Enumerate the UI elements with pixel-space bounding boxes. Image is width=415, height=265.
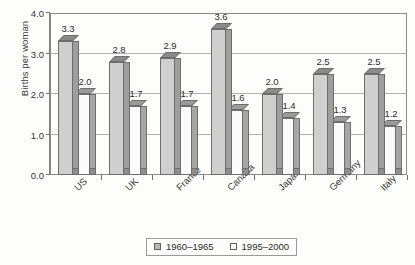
bar-base-shadow	[277, 169, 283, 175]
bar-base-shadow	[379, 169, 385, 175]
bar-value-label: 2.0	[265, 76, 278, 87]
y-tick-mark	[46, 12, 50, 13]
y-axis-title: Births per woman	[19, 0, 30, 124]
bar-front-face	[262, 94, 277, 175]
bar-side-panel	[328, 74, 334, 169]
bar-base-shadow	[192, 169, 198, 175]
x-tick-mark	[254, 175, 255, 180]
bar-value-label: 1.4	[282, 100, 295, 111]
x-category-label: UK	[123, 176, 140, 193]
bar-side-face	[243, 110, 249, 175]
bar	[160, 58, 175, 175]
bar-side-face	[90, 94, 96, 175]
y-tick-mark	[46, 53, 50, 54]
bar-side-panel	[294, 118, 300, 169]
bar	[262, 94, 277, 175]
bar-side-panel	[192, 106, 198, 169]
x-tick-mark	[101, 175, 102, 180]
bar-front-face	[313, 74, 328, 175]
bar-value-label: 2.8	[112, 44, 125, 55]
bar-value-label: 2.9	[163, 40, 176, 51]
bar-side-face	[294, 118, 300, 175]
bar-value-label: 1.3	[333, 104, 346, 115]
bar-side-panel	[175, 58, 181, 169]
bar-side-panel	[90, 94, 96, 169]
bar-side-panel	[345, 122, 351, 169]
plot-area: 0.01.02.03.04.0 3.32.02.81.72.91.73.61.6…	[50, 13, 407, 175]
bar-front-face	[364, 74, 379, 175]
y-tick-mark	[46, 134, 50, 135]
bar-value-label: 2.5	[367, 56, 380, 67]
x-tick-mark	[305, 175, 306, 180]
y-tick-label: 2.0	[31, 89, 44, 100]
bar-base-shadow	[90, 169, 96, 175]
legend-item: 1960–1965	[154, 241, 214, 252]
bar-base-shadow	[243, 169, 249, 175]
bar-value-label: 1.2	[384, 108, 397, 119]
bar-side-panel	[396, 126, 402, 169]
bar-side-face	[141, 106, 147, 175]
bar-front-face	[211, 29, 226, 175]
bar-side-face	[175, 58, 181, 175]
bar-base-shadow	[226, 169, 232, 175]
bar-side-face	[328, 74, 334, 175]
bar-side-panel	[277, 94, 283, 169]
bar-value-label: 3.3	[61, 23, 74, 34]
y-tick-mark	[46, 174, 50, 175]
bar-base-shadow	[396, 169, 402, 175]
y-tick-label: 4.0	[31, 8, 44, 19]
legend-item: 1995–2000	[230, 241, 290, 252]
bar-value-label: 1.7	[180, 88, 193, 99]
bar	[109, 62, 124, 175]
bar-side-face	[192, 106, 198, 175]
bar-side-face	[73, 41, 79, 175]
bar-base-shadow	[328, 169, 334, 175]
bar-front-face	[109, 62, 124, 175]
x-category-label: Italy	[378, 173, 398, 193]
bar-side-panel	[73, 41, 79, 169]
bar-side-panel	[124, 62, 130, 169]
bar-side-face	[226, 29, 232, 175]
bar-value-label: 3.6	[214, 11, 227, 22]
legend-label: 1995–2000	[242, 241, 290, 252]
bar-side-face	[379, 74, 385, 175]
bar-side-face	[124, 62, 130, 175]
bar-base-shadow	[175, 169, 181, 175]
x-tick-mark	[356, 175, 357, 180]
y-axis-spine	[49, 13, 50, 175]
legend-swatch-1960-1965-icon	[154, 243, 161, 250]
bar-base-shadow	[141, 169, 147, 175]
y-tick-label: 1.0	[31, 129, 44, 140]
x-tick-mark	[152, 175, 153, 180]
bar	[58, 41, 73, 175]
y-tick-label: 0.0	[31, 170, 44, 181]
bar-base-shadow	[124, 169, 130, 175]
bar-side-panel	[226, 29, 232, 169]
bar-value-label: 1.7	[129, 88, 142, 99]
bar-front-face	[58, 41, 73, 175]
bar-side-face	[396, 126, 402, 175]
x-category-label: US	[72, 176, 89, 193]
bar-value-label: 2.0	[78, 76, 91, 87]
bar-front-face	[160, 58, 175, 175]
bar-base-shadow	[73, 169, 79, 175]
bar	[211, 29, 226, 175]
bar-base-shadow	[294, 169, 300, 175]
bar-value-label: 2.5	[316, 56, 329, 67]
y-tick-mark	[46, 93, 50, 94]
x-tick-mark	[203, 175, 204, 180]
legend-label: 1960–1965	[166, 241, 214, 252]
bar-side-panel	[379, 74, 385, 169]
bar-side-panel	[243, 110, 249, 169]
chart-figure: Births per woman 0.01.02.03.04.0 3.32.02…	[0, 0, 415, 265]
bar-base-shadow	[345, 169, 351, 175]
bar-side-face	[277, 94, 283, 175]
y-tick-label: 3.0	[31, 48, 44, 59]
bar-side-panel	[141, 106, 147, 169]
bar-side-face	[345, 122, 351, 175]
legend-swatch-1995-2000-icon	[230, 243, 237, 250]
chart-legend: 1960–1965 1995–2000	[146, 238, 297, 256]
bar	[364, 74, 379, 175]
bar-value-label: 1.6	[231, 92, 244, 103]
x-tick-mark	[407, 175, 408, 180]
